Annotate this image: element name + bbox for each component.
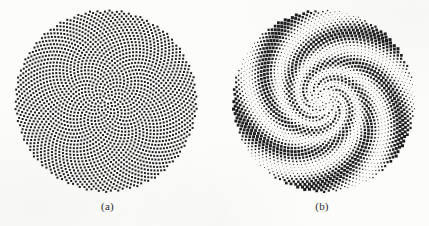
figure-page: (a) (b): [0, 0, 429, 226]
caption-a: (a): [0, 199, 215, 213]
spiral-svg-a: [0, 0, 215, 196]
panel-b: (b): [215, 0, 429, 226]
panel-a: (a): [0, 0, 215, 226]
spiral-svg-b: [215, 0, 429, 196]
caption-b: (b): [215, 199, 429, 213]
spiral-plot-a: [0, 0, 215, 196]
spiral-plot-b: [215, 0, 429, 196]
